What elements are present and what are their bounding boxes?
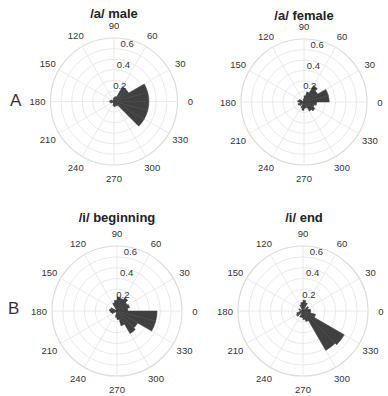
svg-text:300: 300 [334,373,350,384]
svg-text:180: 180 [217,306,233,317]
svg-text:210: 210 [228,345,244,356]
svg-text:120: 120 [256,238,272,249]
svg-text:330: 330 [363,345,379,356]
svg-text:0.2: 0.2 [302,289,315,300]
svg-text:60: 60 [337,238,348,249]
svg-text:0.6: 0.6 [310,246,323,257]
svg-text:150: 150 [228,267,244,278]
svg-text:270: 270 [295,384,311,395]
svg-text:90: 90 [298,228,309,239]
polar-chart-i-end: 03060901201501802102402703003300.20.40.6 [0,0,388,396]
svg-text:30: 30 [365,267,376,278]
svg-text:240: 240 [256,373,272,384]
histogram-bars [296,300,344,350]
svg-text:0.4: 0.4 [306,267,319,278]
svg-text:0: 0 [378,306,383,317]
radius-tick-labels: 0.20.40.6 [302,246,323,300]
